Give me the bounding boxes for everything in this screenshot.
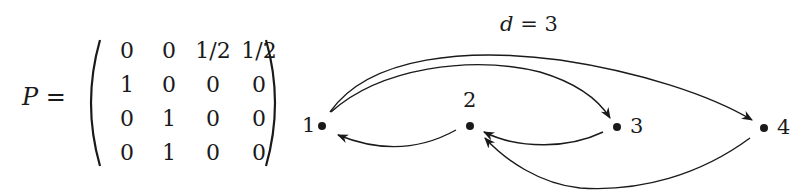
edge-1-to-4 [330, 55, 752, 120]
period-variable: d [500, 12, 513, 36]
node-2-label: 2 [463, 88, 476, 112]
node-4-label: 4 [777, 115, 790, 139]
node-3-label: 3 [630, 114, 643, 138]
edge-2-to-1 [338, 130, 456, 146]
node-1-dot [318, 122, 326, 130]
node-4-dot [760, 124, 768, 132]
node-2-dot [466, 122, 474, 130]
period-value: = 3 [513, 12, 557, 36]
markov-chain-graph [0, 0, 809, 194]
node-3-dot [613, 123, 621, 131]
edge-4-to-2 [485, 138, 750, 189]
edge-3-to-2 [484, 132, 603, 145]
period-label: d = 3 [500, 12, 558, 36]
node-1-label: 1 [302, 113, 315, 137]
